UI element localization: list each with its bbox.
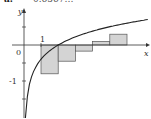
riemann-rectangle-4: [93, 41, 110, 45]
y-axis-arrow-icon: [22, 8, 26, 13]
riemann-rectangle-2: [58, 45, 75, 61]
y-tick-label-neg1: -1: [9, 77, 17, 86]
y-axis-label: y: [17, 7, 23, 16]
riemann-rectangle-1: [41, 45, 58, 74]
x-axis-arrow-icon: [146, 43, 150, 47]
origin-label: 0: [16, 48, 21, 57]
riemann-rectangle-5: [110, 34, 127, 45]
x-tick-label-1: 1: [40, 35, 45, 44]
riemann-rectangle-3: [75, 45, 92, 51]
riemann-sum-plot: y x 0 1 -1: [0, 0, 151, 119]
x-axis-label: x: [144, 49, 149, 58]
riemann-rectangles: [41, 34, 127, 74]
